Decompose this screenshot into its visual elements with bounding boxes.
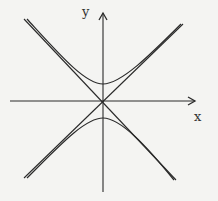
hyperbola-lower-branch xyxy=(27,118,174,180)
diagram-canvas xyxy=(0,0,218,201)
y-axis-label: y xyxy=(82,4,89,19)
hyperbola-diagram: y x xyxy=(0,0,218,201)
hyperbola-upper-branch xyxy=(27,19,181,84)
x-axis-label: x xyxy=(194,109,201,124)
